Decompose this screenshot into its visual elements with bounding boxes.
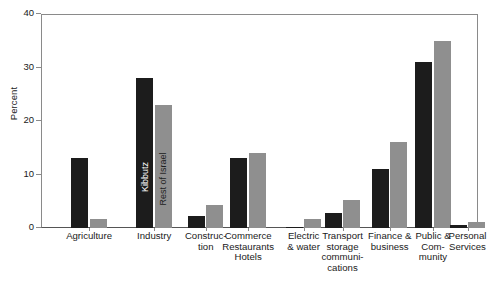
y-axis-title: Percent: [8, 74, 19, 134]
y-tick-label: 0: [29, 221, 34, 232]
y-tick-label: 20: [23, 114, 34, 125]
x-axis-label: Agriculture: [52, 231, 126, 242]
y-tick-label: 10: [23, 168, 34, 179]
y-tick-label: 30: [23, 61, 34, 72]
bars-layer: KibbutzRest of Israel: [41, 14, 478, 228]
x-axis-label: Personal Services: [431, 231, 491, 252]
y-tick-label: 40: [23, 7, 34, 18]
x-axis-labels: AgricultureIndustryConstruc- tionCommerc…: [41, 231, 478, 283]
bar-group: [41, 14, 478, 228]
